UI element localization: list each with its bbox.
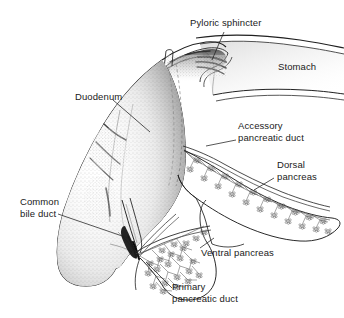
- leader-accessory-duct: [206, 140, 236, 146]
- leader-dorsal-pancreas: [254, 178, 274, 190]
- label-accessory-pancreatic-duct: Accessory pancreatic duct: [238, 120, 304, 143]
- label-ventral-pancreas: Ventral pancreas: [201, 247, 274, 259]
- label-dorsal-pancreas: Dorsal pancreas: [277, 159, 317, 182]
- label-pyloric-sphincter: Pyloric sphincter: [190, 17, 261, 29]
- anatomical-figure: Pyloric sphincter Stomach Duodenum Acces…: [0, 0, 344, 318]
- label-duodenum: Duodenum: [75, 91, 122, 103]
- label-stomach: Stomach: [278, 61, 316, 73]
- label-primary-pancreatic-duct: Primary pancreatic duct: [172, 281, 238, 304]
- label-common-bile-duct: Common bile duct: [20, 196, 59, 219]
- leader-primary-duct: [146, 262, 172, 288]
